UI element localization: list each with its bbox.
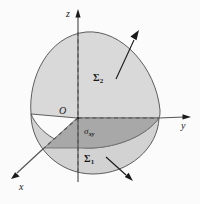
upper-surface-label-subscript: 2 (100, 77, 104, 85)
x-axis-label: x (19, 182, 23, 192)
z-axis-arrowhead (75, 9, 80, 18)
origin-label: O (59, 106, 66, 116)
upper-normal-arrowhead (130, 30, 139, 40)
lower-normal-arrowhead (125, 173, 133, 181)
upper-surface-label-symbol: Σ (93, 72, 100, 83)
origin-point (77, 117, 79, 119)
projection-region-label: σxy (84, 127, 94, 137)
z-axis-label: z (66, 9, 70, 19)
x-axis-arrowhead (11, 172, 20, 179)
y-axis-label: y (181, 121, 185, 131)
coordinate-diagram (0, 0, 200, 204)
x-axis-line (17, 148, 44, 173)
projection-region-label-subscript: xy (88, 131, 94, 137)
y-axis-line (159, 117, 184, 118)
y-axis-arrowhead (183, 114, 192, 119)
lower-surface-label: Σ1 (84, 154, 94, 166)
upper-surface-label: Σ2 (93, 73, 103, 85)
lower-surface-label-symbol: Σ (84, 153, 91, 164)
figure-container: z y x O Σ2 Σ1 σxy (0, 0, 200, 204)
lower-surface-label-subscript: 1 (91, 158, 95, 166)
